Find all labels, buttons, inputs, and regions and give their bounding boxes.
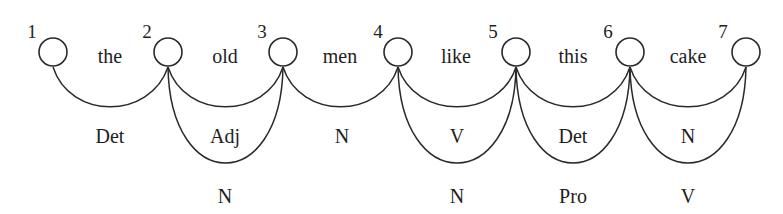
tag-label: Pro <box>559 185 587 207</box>
node-5 <box>502 38 530 66</box>
tag-label: Det <box>96 125 125 147</box>
node-number: 3 <box>257 21 267 42</box>
arc-2-3-adj <box>168 67 283 107</box>
arc-6-7-v <box>630 67 746 163</box>
tag-label: N <box>335 125 349 147</box>
word-like: like <box>441 45 471 67</box>
node-3 <box>269 38 297 66</box>
tag-label: N <box>681 125 695 147</box>
node-number: 6 <box>603 21 613 42</box>
node-4 <box>384 38 412 66</box>
word-men: men <box>323 45 357 67</box>
word-this: this <box>559 45 588 67</box>
node-1 <box>39 38 67 66</box>
node-number: 7 <box>718 21 728 42</box>
arc-1-2-det <box>53 67 168 107</box>
secondary-arcs <box>168 67 746 163</box>
arc-6-7-n <box>630 67 746 107</box>
tag-label: N <box>218 185 232 207</box>
word-the: the <box>98 45 123 67</box>
node-2 <box>154 38 182 66</box>
secondary-tags: N N Pro V <box>218 185 696 207</box>
arc-4-5-v <box>398 67 516 107</box>
arc-2-3-n <box>168 67 283 163</box>
tag-label: V <box>450 125 465 147</box>
node-numbers: 1 2 3 4 5 6 7 <box>27 21 728 42</box>
arc-3-4-n <box>283 67 398 107</box>
nodes <box>39 38 760 66</box>
word-lattice-diagram: 1 2 3 4 5 6 7 the old men like this cake… <box>0 0 783 214</box>
tag-label: Det <box>559 125 588 147</box>
arc-5-6-pro <box>516 67 630 163</box>
node-number: 5 <box>488 21 498 42</box>
node-number: 2 <box>142 21 152 42</box>
word-old: old <box>212 45 238 67</box>
tag-label: Adj <box>210 125 240 148</box>
node-number: 1 <box>27 21 37 42</box>
tag-label: V <box>681 185 696 207</box>
node-6 <box>616 38 644 66</box>
word-cake: cake <box>670 45 707 67</box>
node-7 <box>732 38 760 66</box>
arc-4-5-n <box>398 67 516 163</box>
tag-label: N <box>450 185 464 207</box>
node-number: 4 <box>373 21 383 42</box>
arc-5-6-det <box>516 67 630 107</box>
